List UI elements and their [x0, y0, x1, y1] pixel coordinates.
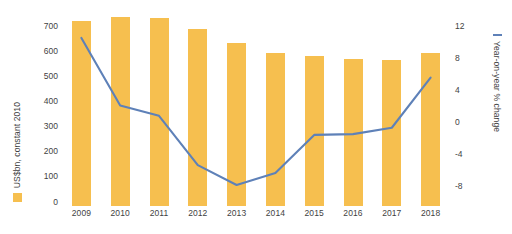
left-axis-tick: 600: [44, 47, 58, 56]
x-axis-tick-2011: 2011: [150, 208, 169, 218]
x-axis-tick-2012: 2012: [188, 208, 207, 218]
right-axis-tick: -8: [455, 182, 463, 191]
x-axis-tick-labels: 2009201020112012201320142015201620172018: [62, 208, 450, 224]
x-axis-tick-2018: 2018: [421, 208, 440, 218]
left-axis-tick: 500: [44, 72, 58, 81]
right-axis-tick: 4: [455, 86, 460, 95]
right-axis-tick: 8: [455, 54, 460, 63]
legend-right-series: Year-on-year % change: [484, 34, 510, 204]
x-axis-tick-2014: 2014: [266, 208, 285, 218]
line-series-svg: [62, 20, 450, 206]
legend-left-series: US$bn, constant 2010: [4, 26, 30, 202]
left-axis-tick-labels: 700 600 500 400 300 200 100 0: [32, 0, 58, 234]
right-axis-title: Year-on-year % change: [492, 41, 502, 132]
left-axis-title: US$bn, constant 2010: [12, 102, 22, 188]
x-axis-tick-2017: 2017: [382, 208, 401, 218]
bar-series-swatch-icon: [13, 193, 22, 202]
right-axis-tick: -4: [455, 150, 463, 159]
right-axis-tick: 12: [455, 22, 464, 31]
plot-area: [62, 20, 450, 206]
left-axis-tick: 400: [44, 97, 58, 106]
left-axis-tick: 200: [44, 147, 58, 156]
left-axis-tick: 0: [53, 198, 58, 207]
x-axis-tick-2010: 2010: [111, 208, 130, 218]
x-axis-tick-2009: 2009: [72, 208, 91, 218]
yoy-change-polyline: [81, 38, 430, 185]
x-axis-tick-2013: 2013: [227, 208, 246, 218]
right-axis-tick-labels: 12 8 4 0 -4 -8: [455, 0, 481, 234]
right-axis-tick: 0: [455, 118, 460, 127]
left-axis-tick: 300: [44, 122, 58, 131]
x-axis-tick-2015: 2015: [305, 208, 324, 218]
line-series-swatch-icon: [493, 34, 502, 36]
left-axis-tick: 100: [44, 172, 58, 181]
x-axis-tick-2016: 2016: [343, 208, 362, 218]
line-series-layer: [62, 20, 450, 206]
chart-container: US$bn, constant 2010 Year-on-year % chan…: [0, 0, 512, 234]
left-axis-tick: 700: [44, 22, 58, 31]
